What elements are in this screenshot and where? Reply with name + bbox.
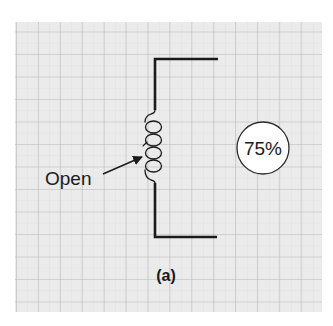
percentage-badge: 75% — [237, 122, 289, 174]
percentage-value: 75% — [244, 138, 282, 159]
figure-caption: (a) — [156, 267, 176, 284]
inductor-open-diagram: Open 75% (a) — [0, 0, 333, 326]
open-label: Open — [45, 168, 91, 189]
